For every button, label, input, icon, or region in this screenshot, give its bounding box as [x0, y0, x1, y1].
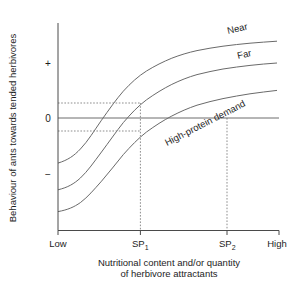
x-tick-label-sp2-base: SP: [219, 238, 232, 249]
y-tick-label-minus: −: [45, 169, 51, 180]
curve-label-high-protein-demand: High-protein demand: [163, 98, 247, 148]
chart-plot-area: Low SP1 SP2 High + 0 − Near Far High-pro…: [0, 0, 300, 290]
x-tick-label-sp2-subscript: 2: [232, 244, 236, 251]
curve-label-far: Far: [236, 47, 252, 61]
x-tick-label-sp1-subscript: 1: [145, 244, 149, 251]
x-axis-title-line2: of herbivore attractants: [120, 268, 217, 279]
y-tick-label-zero: 0: [45, 113, 51, 124]
y-axis-title: Behaviour of ants towards tended herbivo…: [7, 33, 18, 222]
x-tick-label-high: High: [267, 238, 287, 249]
x-tick-label-sp2: SP2: [219, 238, 236, 251]
curve-far: [58, 63, 277, 190]
chart-figure: Low SP1 SP2 High + 0 − Near Far High-pro…: [0, 0, 300, 290]
x-axis-title-line1: Nutritional content and/or quantity: [98, 257, 240, 268]
x-tick-label-sp1: SP1: [132, 238, 149, 251]
curve-label-near: Near: [226, 21, 249, 36]
y-tick-label-plus: +: [45, 58, 51, 69]
series-far: [58, 63, 277, 190]
x-tick-label-low: Low: [49, 238, 67, 249]
x-tick-label-sp1-base: SP: [132, 238, 145, 249]
